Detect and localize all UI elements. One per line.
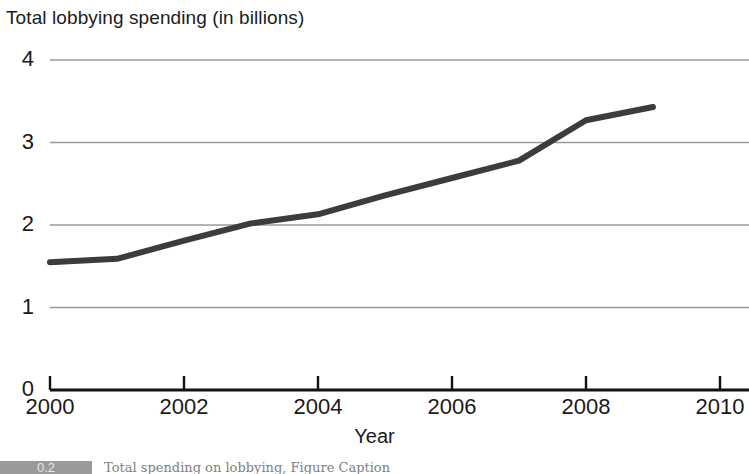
x-tick-label: 2002 — [142, 396, 226, 418]
x-axis-title: Year — [0, 425, 749, 447]
x-tick-label: 2010 — [678, 396, 749, 418]
line-chart-plot — [0, 0, 749, 474]
x-tick-label: 2008 — [544, 396, 628, 418]
figure-caption-strip: 0.2 Total spending on lobbying, Figure C… — [0, 459, 749, 474]
data-series-line — [50, 107, 653, 262]
y-tick-label: 4 — [6, 48, 34, 70]
x-tick-label: 2006 — [410, 396, 494, 418]
chart-figure: Total lobbying spending (in billions) 01… — [0, 0, 749, 474]
x-tick-label: 2000 — [8, 396, 92, 418]
gridline-group — [50, 60, 749, 308]
y-tick-label: 3 — [6, 131, 34, 153]
figure-caption-text: Total spending on lobbying, Figure Capti… — [104, 461, 744, 474]
x-tick-label: 2004 — [276, 396, 360, 418]
y-tick-label: 2 — [6, 213, 34, 235]
xtick-mark-group — [50, 376, 720, 390]
y-tick-label: 1 — [6, 296, 34, 318]
figure-number-badge: 0.2 — [0, 461, 92, 474]
